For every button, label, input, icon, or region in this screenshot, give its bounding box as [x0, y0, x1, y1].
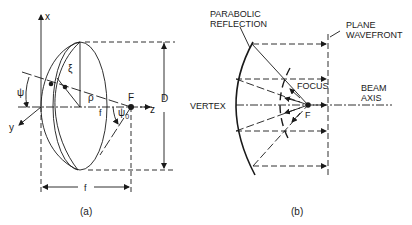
- focus-text-label: FOCUS: [297, 81, 329, 91]
- caption-b: (b): [291, 207, 303, 217]
- y-axis-label: y: [9, 123, 14, 133]
- x-axis-label: x: [45, 12, 50, 22]
- focal-length-dimension-label: f: [84, 183, 87, 193]
- y-axis: [19, 107, 41, 125]
- rho-label: ρ: [88, 93, 94, 103]
- focus-label-b: F: [305, 110, 311, 120]
- focus-point-b: [305, 102, 311, 108]
- paraboloid-inner: [55, 42, 80, 170]
- parabolic-reflection-label-1: PARABOLIC: [210, 9, 261, 19]
- psi0-angle-label: ψ0: [118, 108, 129, 122]
- beam-axis-label-1: BEAM: [361, 83, 387, 93]
- vertex-label: VERTEX: [190, 101, 226, 111]
- psi-angle-label: ψ: [17, 88, 24, 98]
- xi-label: ξ: [68, 64, 72, 74]
- plane-wavefront-label-2: WAVEFRONT: [346, 30, 403, 40]
- z-axis-label: z: [150, 105, 155, 115]
- beam-axis-label-2: AXIS: [361, 93, 382, 103]
- focus-label-a: F: [128, 93, 134, 103]
- diameter-label: D: [161, 94, 168, 104]
- focal-length-axis-label: f: [99, 108, 102, 118]
- parabolic-reflection-label-2: REFLECTION: [210, 19, 267, 29]
- caption-a: (a): [80, 207, 92, 217]
- reflector-curve: [236, 42, 255, 175]
- plane-wavefront-label-1: PLANE: [346, 20, 376, 30]
